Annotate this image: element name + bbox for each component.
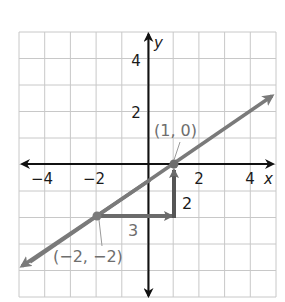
y-tick-label: 4 (131, 52, 141, 70)
x-tick-label: −2 (83, 170, 105, 188)
x-tick-label: 2 (194, 170, 204, 188)
x-tick-label: −4 (31, 170, 53, 188)
run-label: 3 (128, 221, 138, 240)
point-neg2-neg2 (93, 212, 102, 221)
x-axis-label: x (263, 170, 273, 188)
y-axis-label: y (153, 34, 164, 52)
coordinate-plane: −4 −2 2 4 x 4 2 y 2 3 (1, 0) (−2, −2) (0, 0, 285, 302)
point-label-neg2-neg2: (−2, −2) (53, 247, 123, 266)
y-tick-label: 2 (131, 104, 141, 122)
leader-neg2-neg2 (99, 220, 102, 246)
point-label-1-0: (1, 0) (154, 121, 197, 140)
point-1-0 (170, 160, 179, 169)
x-tick-label: 4 (245, 170, 255, 188)
rise-label: 2 (182, 194, 192, 213)
leader-1-0 (174, 142, 180, 160)
